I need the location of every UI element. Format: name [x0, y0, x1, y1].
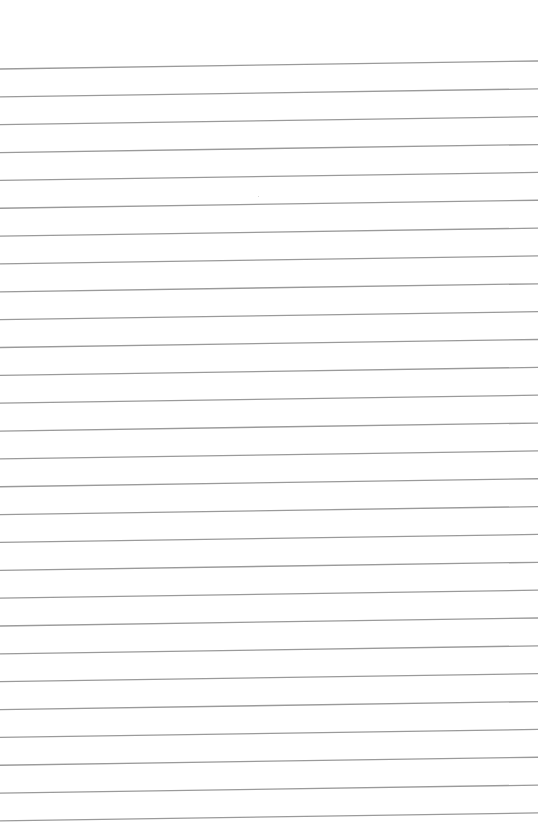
ruled-line	[0, 61, 538, 69]
lined-paper-page	[0, 0, 538, 829]
ruled-line	[0, 89, 538, 97]
ruled-line	[0, 200, 538, 208]
ruled-line	[0, 340, 538, 348]
paper-speck	[258, 196, 259, 197]
ruled-line	[0, 395, 538, 403]
ruled-line	[0, 423, 538, 431]
ruled-line	[0, 145, 538, 153]
ruled-line	[0, 562, 538, 570]
ruled-line	[0, 228, 538, 236]
ruled-line	[0, 674, 538, 682]
ruled-line	[0, 256, 538, 264]
ruled-line	[0, 590, 538, 598]
ruled-line	[0, 479, 538, 487]
ruled-lines	[0, 0, 538, 829]
ruled-line	[0, 451, 538, 459]
ruled-line	[0, 284, 538, 292]
ruled-line	[0, 312, 538, 320]
ruled-line	[0, 729, 538, 737]
ruled-line	[0, 702, 538, 710]
ruled-line	[0, 172, 538, 180]
ruled-line	[0, 618, 538, 626]
ruled-line	[0, 757, 538, 765]
ruled-line	[0, 785, 538, 793]
ruled-line	[0, 117, 538, 125]
ruled-line	[0, 507, 538, 515]
ruled-line	[0, 646, 538, 654]
ruled-line	[0, 367, 538, 375]
ruled-line	[0, 813, 538, 821]
ruled-line	[0, 534, 538, 542]
